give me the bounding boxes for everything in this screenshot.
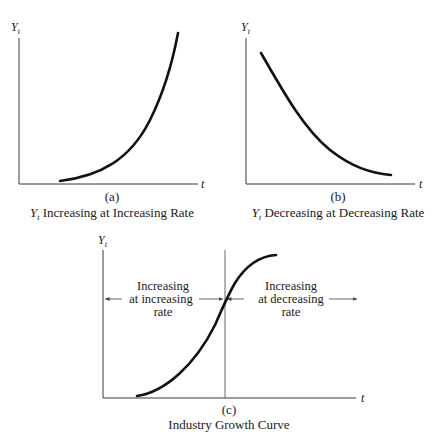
increasing-accelerating-curve bbox=[60, 33, 178, 181]
panel-tag: (a) bbox=[105, 189, 119, 204]
svg-text:Increasing: Increasing bbox=[265, 279, 318, 293]
panel-caption: Industry Growth Curve bbox=[168, 417, 290, 432]
growth-curves-diagram: Yt t (a) Yt Increasing at Increasing Rat… bbox=[0, 0, 437, 438]
panel-tag: (c) bbox=[222, 402, 236, 417]
panel-c: Yt t Increasing at increasing rate Incre… bbox=[98, 233, 365, 432]
svg-text:at increasing: at increasing bbox=[129, 292, 193, 306]
svg-text:rate: rate bbox=[154, 305, 173, 319]
x-axis-label: t bbox=[361, 391, 365, 405]
axes bbox=[246, 38, 415, 184]
x-axis-label: t bbox=[201, 177, 205, 191]
y-axis-label: Yt bbox=[11, 20, 21, 36]
svg-text:at decreasing: at decreasing bbox=[258, 292, 324, 306]
left-region-label: Increasing at increasing rate bbox=[129, 279, 193, 319]
axes bbox=[103, 250, 356, 398]
panel-caption: Yt Decreasing at Decreasing Rate bbox=[252, 205, 425, 222]
panel-caption: Yt Increasing at Increasing Rate bbox=[30, 205, 194, 222]
y-axis-label: Yt bbox=[241, 20, 251, 36]
svg-text:rate: rate bbox=[282, 305, 301, 319]
y-axis-label: Yt bbox=[98, 233, 108, 249]
decreasing-decelerating-curve bbox=[261, 53, 391, 175]
panel-b: Yt t (b) Yt Decreasing at Decreasing Rat… bbox=[241, 20, 425, 222]
svg-text:Increasing: Increasing bbox=[137, 279, 190, 293]
right-region-label: Increasing at decreasing rate bbox=[258, 279, 324, 319]
panel-a: Yt t (a) Yt Increasing at Increasing Rat… bbox=[11, 20, 205, 222]
panel-tag: (b) bbox=[330, 189, 345, 204]
s-growth-curve bbox=[137, 255, 276, 396]
x-axis-label: t bbox=[419, 177, 423, 191]
